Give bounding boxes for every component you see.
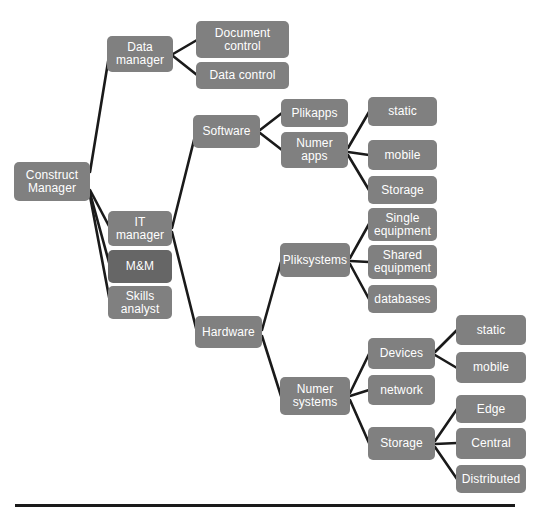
edge-devices-to-dev-static (435, 330, 457, 352)
edge-data-manager-to-data-control (173, 56, 197, 75)
edge-hw-storage-to-distributed (435, 447, 457, 479)
edge-software-to-numer-apps (260, 133, 282, 150)
edge-numer-apps-to-sw-storage (348, 155, 369, 190)
edge-it-manager-to-hardware (172, 232, 197, 332)
edge-numer-apps-to-sw-mobile (348, 152, 369, 155)
node-databases[interactable]: databases (368, 285, 437, 313)
diagram-canvas: ConstructManagerDatamanagerDocumentcontr… (0, 0, 533, 515)
edge-devices-to-dev-mobile (435, 355, 457, 368)
node-dev-mobile[interactable]: mobile (456, 352, 526, 383)
edge-numer-systems-to-hw-storage (350, 400, 369, 443)
node-construct-manager[interactable]: ConstructManager (14, 162, 90, 201)
node-software[interactable]: Software (193, 115, 260, 148)
node-skills-analyst[interactable]: Skillsanalyst (108, 286, 172, 319)
node-data-control[interactable]: Data control (196, 62, 289, 89)
node-sw-static[interactable]: static (368, 97, 437, 126)
node-numer-apps[interactable]: Numerapps (281, 132, 348, 168)
node-network[interactable]: network (368, 375, 435, 405)
edge-data-manager-to-document-control (173, 40, 197, 54)
edge-pliksystems-to-single-equipment (350, 224, 369, 258)
edge-numer-apps-to-sw-static (348, 112, 369, 148)
node-dev-static[interactable]: static (456, 315, 526, 345)
edge-construct-manager-to-data-manager (90, 56, 109, 172)
node-edge[interactable]: Edge (456, 395, 526, 423)
node-distributed[interactable]: Distributed (456, 465, 526, 493)
edge-hardware-to-pliksystems (262, 262, 281, 330)
node-central[interactable]: Central (456, 428, 526, 459)
edge-it-manager-to-software (172, 132, 196, 228)
node-sw-storage[interactable]: Storage (368, 176, 437, 204)
edge-hw-storage-to-central (435, 443, 457, 444)
edge-numer-systems-to-devices (350, 354, 369, 393)
bottom-divider (15, 504, 515, 507)
edge-software-to-plikapps (260, 113, 282, 130)
node-sw-mobile[interactable]: mobile (368, 140, 437, 170)
node-shared-equipment[interactable]: Sharedequipment (368, 245, 437, 279)
edge-hardware-to-numer-systems (262, 336, 281, 396)
node-numer-systems[interactable]: Numersystems (280, 377, 350, 415)
node-mm[interactable]: M&M (108, 250, 172, 283)
node-document-control[interactable]: Documentcontrol (196, 21, 289, 58)
node-it-manager[interactable]: ITmanager (108, 211, 172, 246)
edge-pliksystems-to-databases (350, 264, 369, 299)
node-single-equipment[interactable]: Singleequipment (368, 208, 437, 241)
edge-numer-systems-to-network (350, 390, 369, 396)
node-pliksystems[interactable]: Pliksystems (280, 243, 350, 277)
edge-hw-storage-to-edge (435, 409, 457, 441)
node-hardware[interactable]: Hardware (195, 316, 262, 348)
node-hw-storage[interactable]: Storage (368, 427, 435, 460)
node-data-manager[interactable]: Datamanager (107, 36, 173, 72)
edge-construct-manager-to-skills-analyst (90, 196, 110, 302)
node-plikapps[interactable]: Plikapps (281, 99, 348, 127)
edge-pliksystems-to-shared-equipment (350, 261, 369, 262)
node-devices[interactable]: Devices (368, 338, 435, 369)
